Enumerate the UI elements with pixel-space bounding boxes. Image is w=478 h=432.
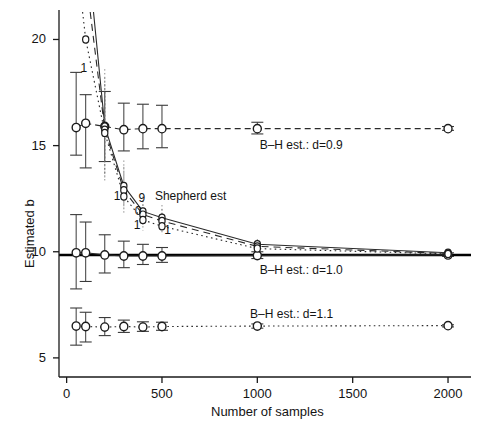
data-point-marker [82,249,90,257]
data-points-group [72,36,452,331]
data-point-marker [139,323,147,331]
data-point-marker [253,322,261,330]
x-tick-label: 1000 [243,387,272,400]
data-point-marker [120,252,128,260]
series-line [76,123,448,129]
series-annotation: B–H est.: d=0.9 [260,139,343,151]
data-point-marker [82,322,90,330]
data-point-marker [102,129,108,136]
x-tick-label: 0 [63,387,70,400]
chart-canvas [0,0,478,432]
series-annotation: B–H est.: d=1.1 [250,308,333,320]
data-point-marker [121,193,127,200]
x-tick-label: 1500 [338,387,367,400]
error-bars-group [70,69,454,345]
y-tick-label: 15 [32,139,46,152]
data-point-marker [158,322,166,330]
data-point-marker [445,250,451,257]
figure-container: 51015200500100015002000B–H est.: d=0.9B–… [0,0,478,432]
series-line [94,12,449,253]
data-point-marker [120,125,128,133]
point-digit-label: 9 [139,192,146,204]
data-point-marker [82,119,90,127]
data-point-marker [72,249,80,257]
x-tick-label: 500 [151,387,173,400]
data-point-marker [444,124,452,132]
point-digit-label: 1 [114,190,121,202]
series-annotation: Shepherd est [155,190,226,202]
data-point-marker [72,322,80,330]
data-point-marker [158,124,166,132]
data-point-marker [139,252,147,260]
y-tick-label: 5 [39,351,46,364]
data-point-marker [83,36,89,43]
data-point-marker [444,321,452,329]
data-point-marker [101,251,109,259]
data-point-marker [139,124,147,132]
y-axis-title: Estimated b [22,199,37,268]
data-point-marker [254,245,260,252]
series-annotation: B–H est.: d=1.0 [260,264,343,276]
data-point-marker [101,323,109,331]
series-line [76,326,448,328]
data-point-marker [72,123,80,131]
point-digit-label: 0 [135,205,142,217]
point-digit-label: 1 [80,62,87,74]
point-digit-label: 1 [134,219,141,231]
point-digit-label: 1 [164,224,171,236]
data-point-marker [253,124,261,132]
data-point-marker [120,322,128,330]
data-point-marker [158,252,166,260]
x-axis-title: Number of samples [211,405,324,418]
y-tick-label: 20 [32,32,46,45]
series-group [76,12,448,327]
x-tick-label: 2000 [434,387,463,400]
